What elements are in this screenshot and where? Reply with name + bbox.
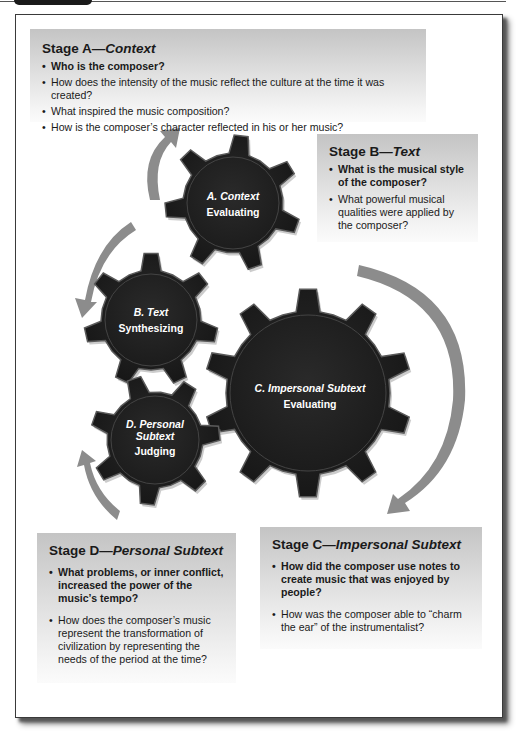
stage-a-questions: Who is the composer? How does the intens… [42,60,426,134]
arrow-up-to-stage-a-icon [147,128,180,200]
stage-d-title-italic: Personal Subtext [113,543,223,558]
stage-b-title-prefix: Stage B— [329,144,393,159]
gear-d-skill: Judging [110,445,200,457]
gear-a-skill: Evaluating [193,205,273,219]
stage-a-title: Stage A—Context [42,41,426,56]
gear-c-label: C. Impersonal Subtext Evaluating [245,381,375,411]
gear-d-title-line1: D. Personal [110,418,200,430]
stage-a-title-prefix: Stage A— [42,41,105,56]
question-item: Who is the composer? [42,60,426,73]
stage-c-box: Stage C—Impersonal Subtext How did the c… [260,527,482,649]
stage-b-title: Stage B—Text [329,144,470,159]
stage-d-title: Stage D—Personal Subtext [49,543,228,558]
question-item: How did the composer use notes to create… [272,560,474,599]
gear-c-skill: Evaluating [245,397,375,411]
question-item: How does the intensity of the music refl… [42,76,426,102]
question-item: What inspired the music composition? [42,105,426,118]
stage-c-title-prefix: Stage C— [272,537,336,552]
gear-c-title: C. Impersonal Subtext [245,381,375,395]
stage-c-title-italic: Impersonal Subtext [336,537,461,552]
stage-a-box: Stage A—Context Who is the composer? How… [30,29,426,122]
question-item: What powerful musical qualities were app… [329,193,470,232]
stage-b-questions: What is the musical style of the compose… [329,163,470,232]
question-item: How is the composer’s character reflecte… [42,121,426,134]
stage-b-title-italic: Text [393,144,420,159]
gear-a-title: A. Context [193,189,273,203]
question-item: What is the musical style of the compose… [329,163,470,189]
stage-d-questions: What problems, or inner conflict, increa… [49,566,228,666]
stage-a-title-italic: Context [105,41,155,56]
stage-b-box: Stage B—Text What is the musical style o… [317,134,478,242]
stage-c-questions: How did the composer use notes to create… [272,560,474,634]
gear-b-skill: Synthesizing [111,321,191,335]
question-item: How does the composer’s music represent … [49,614,228,666]
gear-d-label: D. Personal Subtext Judging [110,418,200,457]
gear-a-label: A. Context Evaluating [193,189,273,219]
gear-b-label: B. Text Synthesizing [111,305,191,335]
gear-d-title-line2: Subtext [110,430,200,442]
stage-d-box: Stage D—Personal Subtext What problems, … [37,533,236,683]
stage-c-title: Stage C—Impersonal Subtext [272,537,474,552]
question-item: What problems, or inner conflict, increa… [49,566,228,605]
question-item: How was the composer able to “charm the … [272,608,474,634]
gear-b-title: B. Text [111,305,191,319]
stage-d-title-prefix: Stage D— [49,543,113,558]
